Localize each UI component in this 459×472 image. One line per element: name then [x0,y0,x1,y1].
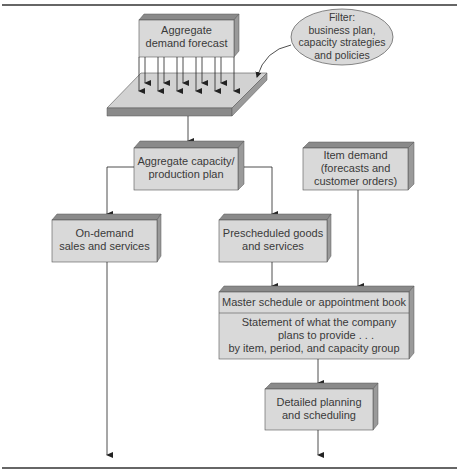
label-line: Aggregate capacity/ [134,155,238,168]
capacity-to-prescheduled-arrow [244,167,272,214]
label-line: demand forecast [139,37,234,50]
filter-platform [107,73,267,116]
aggregate-demand-label: Aggregate demand forecast [139,24,234,50]
on-demand-label: On-demand sales and services [52,227,157,253]
label-line: plans to provide . . . [219,329,409,342]
label-line: Prescheduled goods [219,227,327,240]
master-schedule-header: Master schedule or appointment book [219,296,409,309]
prescheduled-label: Prescheduled goods and services [219,227,327,253]
label-line: capacity strategies [291,36,393,49]
master-schedule-body: Statement of what the company plans to p… [219,316,409,355]
label-line: Statement of what the company [219,316,409,329]
label-line: Item demand [303,149,408,162]
label-line: Filter: [291,11,393,24]
label-line: business plan, [291,24,393,37]
capacity-to-ondemand-arrow [107,167,134,214]
label-line: by item, period, and capacity group [219,342,409,355]
label-line: production plan [134,168,238,181]
filter-arrow [257,45,291,77]
label-line: Aggregate [139,24,234,37]
aggregate-capacity-label: Aggregate capacity/ production plan [134,155,238,181]
label-line: sales and services [52,240,157,253]
detailed-planning-label: Detailed planning and scheduling [265,396,373,422]
label-line: (forecasts and [303,162,408,175]
label-line: customer orders) [303,175,408,188]
label-line: Detailed planning [265,396,373,409]
label-line: and services [219,240,327,253]
label-line: and policies [291,49,393,62]
item-demand-label: Item demand (forecasts and customer orde… [303,149,408,188]
label-line: and scheduling [265,409,373,422]
label-line: On-demand [52,227,157,240]
filter-label: Filter: business plan, capacity strategi… [291,11,393,61]
